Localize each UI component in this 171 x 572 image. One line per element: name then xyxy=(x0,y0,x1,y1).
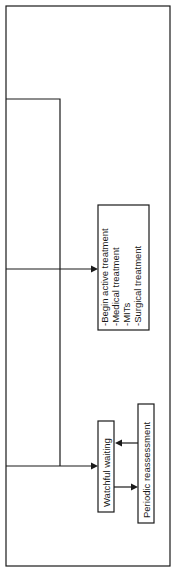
node-line: -Begin active treatment xyxy=(99,228,110,326)
arrowhead-icon xyxy=(115,440,122,447)
arrowhead-icon xyxy=(91,266,98,273)
node-active-treatment: -Begin active treatment -Medical treatme… xyxy=(98,205,149,330)
node-periodic-reassessment: Periodic reassessment xyxy=(138,404,154,523)
node-line: -MITs xyxy=(121,303,132,326)
node-line: Watchful waiting xyxy=(101,438,112,507)
arrowhead-icon xyxy=(91,463,98,470)
branch-connector xyxy=(6,99,60,466)
node-line: Periodic reassessment xyxy=(141,422,152,518)
node-line: -Surgical treatment xyxy=(132,245,143,326)
node-watchful-waiting: Watchful waiting xyxy=(98,421,114,512)
arrowhead-icon xyxy=(131,484,138,491)
flowchart-diagram: -Begin active treatment -Medical treatme… xyxy=(0,0,171,572)
node-line: -Medical treatment xyxy=(110,247,121,326)
